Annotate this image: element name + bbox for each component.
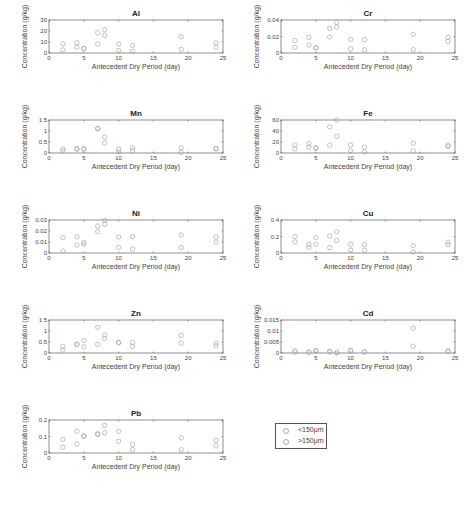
data-point-coarse: [362, 150, 366, 154]
data-point-coarse: [96, 229, 100, 233]
panel-title: Mn: [130, 109, 142, 118]
x-tick-label: 5: [82, 455, 86, 461]
data-point-coarse: [75, 243, 79, 247]
y-tick-label: 20: [272, 139, 279, 145]
data-point-coarse: [130, 247, 134, 251]
data-point-fine: [328, 234, 332, 238]
y-tick-label: 0.015: [264, 317, 280, 323]
circle-marker-icon: [283, 428, 289, 434]
data-point-coarse: [411, 250, 415, 254]
x-tick-label: 15: [150, 55, 157, 61]
x-tick-label: 5: [314, 355, 318, 361]
x-tick-label: 20: [185, 255, 192, 261]
x-tick-label: 15: [150, 255, 157, 261]
x-axis-label: Antecedent Dry Period (day): [324, 163, 412, 171]
data-point-fine: [214, 235, 218, 239]
x-tick-label: 25: [220, 55, 227, 61]
data-point-coarse: [307, 245, 311, 249]
data-point-coarse: [179, 448, 183, 452]
data-point-fine: [179, 233, 183, 237]
scatter-panel-cr: Cr051015202500.020.04Antecedent Dry Peri…: [232, 0, 464, 100]
data-point-fine: [362, 145, 366, 149]
x-tick-label: 10: [115, 355, 122, 361]
axes-box: [49, 320, 223, 353]
data-point-fine: [348, 143, 352, 147]
data-point-fine: [61, 42, 65, 46]
data-point-fine: [328, 26, 332, 30]
panel-title: Zn: [131, 309, 141, 318]
data-point-fine: [328, 125, 332, 129]
x-tick-label: 0: [47, 355, 51, 361]
x-axis-label: Antecedent Dry Period (day): [92, 263, 180, 271]
x-tick-label: 20: [185, 455, 192, 461]
data-point-coarse: [82, 345, 86, 349]
data-point-fine: [348, 37, 352, 41]
data-point-fine: [179, 35, 183, 39]
data-point-fine: [96, 325, 100, 329]
scatter-panel-fe: Fe05101520250204060Antecedent Dry Period…: [232, 100, 464, 200]
data-point-coarse: [96, 42, 100, 46]
data-point-coarse: [334, 238, 338, 242]
data-point-fine: [293, 38, 297, 42]
y-tick-label: 60: [272, 117, 279, 123]
data-point-fine: [96, 224, 100, 228]
axes-box: [281, 320, 455, 353]
data-point-fine: [116, 429, 120, 433]
x-tick-label: 10: [347, 55, 354, 61]
axes-box: [49, 220, 223, 253]
legend-label: >150μm: [298, 437, 324, 444]
data-point-coarse: [179, 341, 183, 345]
data-point-coarse: [82, 46, 86, 50]
data-point-fine: [116, 42, 120, 46]
y-tick-label: 0.005: [264, 339, 280, 345]
x-tick-label: 20: [185, 155, 192, 161]
data-point-fine: [293, 234, 297, 238]
legend: <150μm >150μm: [275, 423, 327, 449]
x-tick-label: 25: [220, 355, 227, 361]
data-point-coarse: [130, 149, 134, 153]
y-axis-label: Concentration (g/kg): [21, 205, 29, 268]
data-point-coarse: [179, 47, 183, 51]
data-point-fine: [102, 423, 106, 427]
data-point-coarse: [348, 47, 352, 51]
x-tick-label: 15: [150, 455, 157, 461]
panel-title: Cd: [363, 309, 374, 318]
data-point-fine: [334, 230, 338, 234]
x-tick-label: 20: [185, 55, 192, 61]
data-point-coarse: [328, 143, 332, 147]
y-tick-label: 0.2: [271, 234, 280, 240]
x-tick-label: 0: [279, 355, 283, 361]
y-axis-label: Concentration (g/kg): [253, 105, 261, 168]
x-axis-label: Antecedent Dry Period (day): [324, 63, 412, 71]
y-tick-label: 1: [44, 328, 48, 334]
x-tick-label: 20: [417, 255, 424, 261]
data-point-fine: [214, 41, 218, 45]
y-tick-label: 0.2: [39, 417, 48, 423]
y-tick-label: 20: [40, 28, 47, 34]
data-point-fine: [179, 146, 183, 150]
data-point-coarse: [214, 444, 218, 448]
legend-label: <150μm: [298, 426, 324, 433]
data-point-coarse: [334, 25, 338, 29]
x-axis-label: Antecedent Dry Period (day): [324, 363, 412, 371]
data-point-fine: [446, 35, 450, 39]
x-tick-label: 10: [347, 155, 354, 161]
x-tick-label: 5: [82, 55, 86, 61]
data-point-coarse: [362, 48, 366, 52]
data-point-fine: [61, 437, 65, 441]
circle-marker-icon: [283, 439, 289, 445]
x-tick-label: 25: [452, 155, 459, 161]
data-point-coarse: [179, 245, 183, 249]
y-tick-label: 10: [40, 39, 47, 45]
panel-title: Ni: [132, 209, 140, 218]
x-axis-label: Antecedent Dry Period (day): [92, 163, 180, 171]
legend-item-fine: <150μm: [276, 425, 326, 436]
x-tick-label: 20: [417, 155, 424, 161]
data-point-coarse: [116, 340, 120, 344]
data-point-fine: [130, 43, 134, 47]
x-tick-label: 5: [82, 355, 86, 361]
x-tick-label: 0: [279, 55, 283, 61]
x-axis-label: Antecedent Dry Period (day): [92, 463, 180, 471]
data-point-coarse: [102, 431, 106, 435]
y-axis-label: Concentration (g/kg): [21, 405, 29, 468]
